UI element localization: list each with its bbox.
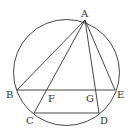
point-label-g: G [86,93,94,104]
point-label-a: A [80,8,89,19]
segment-ab [17,20,85,90]
point-label-b: B [6,89,13,100]
circumcircle [14,20,120,126]
geometry-diagram: ABCDEFG [0,0,133,133]
segment-ac [34,20,85,113]
segments [17,20,115,113]
point-label-e: E [117,89,124,100]
point-label-f: F [48,93,55,104]
diagram-svg: ABCDEFG [0,0,133,133]
point-label-d: D [100,115,108,126]
point-label-c: C [26,115,34,126]
segment-ae [85,20,115,90]
point-labels: ABCDEFG [6,8,124,126]
